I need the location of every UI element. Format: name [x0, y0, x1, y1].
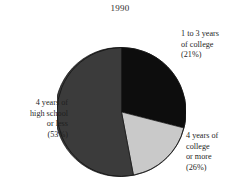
- pie-chart-graphic: [57, 40, 186, 186]
- slice-label-line: or less: [30, 119, 68, 130]
- slice-label-line: 1 to 3 years: [181, 29, 219, 40]
- slice-label-line: or more: [186, 152, 218, 163]
- slice-label-line: 4 years of: [30, 98, 68, 109]
- slice-label-college-4plus: 4 years of college or more (26%): [186, 131, 218, 173]
- slice-label-line: high school: [30, 109, 68, 120]
- pie-svg: [57, 40, 186, 186]
- slice-label-percent: (21%): [181, 50, 219, 61]
- chart-title: 1990: [0, 3, 240, 13]
- slice-label-percent: (53%): [30, 130, 68, 141]
- slice-label-line: of college: [181, 40, 219, 51]
- pie-slices: [57, 47, 186, 176]
- pie-chart-figure: 1990 1 to 3 years of college (21%) 4 yea…: [0, 0, 240, 192]
- slice-label-college-1-3: 1 to 3 years of college (21%): [181, 29, 219, 61]
- slice-label-highschool: 4 years of high school or less (53%): [30, 98, 68, 140]
- slice-label-line: college: [186, 142, 218, 153]
- slice-label-line: 4 years of: [186, 131, 218, 142]
- slice-label-percent: (26%): [186, 163, 218, 174]
